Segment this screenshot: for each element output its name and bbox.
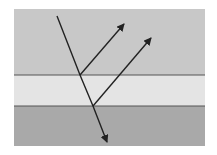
- thin-film-layer: [14, 75, 205, 106]
- top-medium: [14, 9, 205, 75]
- bottom-medium: [14, 106, 205, 146]
- thin-film-diagram: [0, 0, 217, 155]
